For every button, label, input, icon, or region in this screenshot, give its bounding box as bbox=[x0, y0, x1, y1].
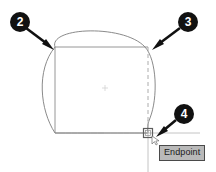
callout-marker-2[interactable]: 2 bbox=[10, 12, 30, 32]
center-point-marker bbox=[102, 85, 108, 91]
callout-4-arrow bbox=[156, 120, 176, 137]
callout-marker-3[interactable]: 3 bbox=[178, 12, 198, 32]
callout-marker-4[interactable]: 4 bbox=[174, 104, 194, 124]
mouse-pointer-icon bbox=[152, 136, 159, 145]
endpoint-snap-tooltip: Endpoint bbox=[159, 145, 205, 161]
callout-3-arrow bbox=[152, 28, 180, 50]
callout-2-arrow bbox=[26, 28, 54, 50]
cad-drawing-canvas[interactable]: 2 3 4 Endpoint bbox=[0, 0, 216, 172]
dome-arc-outline[interactable] bbox=[42, 31, 155, 133]
